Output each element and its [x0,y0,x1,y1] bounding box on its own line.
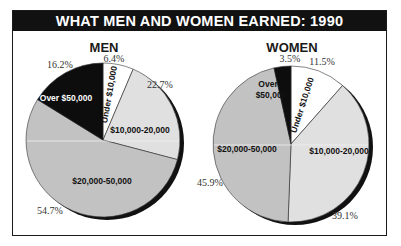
women-pct-label-under-10-000: 11.5% [309,56,334,67]
men-pct-label-20-000-50-000: 54.7% [37,205,63,216]
women-pct-label-over-50-000: 3.5% [280,53,301,64]
women-pie-group: WOMEN 11.5%39.1%45.9%3.5%Under $10,000$1… [197,40,373,225]
men-pct-label-over-50-000: 16.2% [47,59,73,70]
men-slice-label-over-50-000: Over $50,000 [40,93,93,103]
men-pct-label-under-10-000: 6.4% [104,53,125,64]
women-slice-label-20-000-50-000: $20,000-50,000 [217,144,277,154]
women-pct-label-20-000-50-000: 45.9% [197,177,223,188]
men-pct-label-10-000-20-000: 22.7% [147,79,173,90]
men-slice-label-10-000-20-000: $10,000-20,000 [110,125,170,135]
men-pie-group: MEN 6.4%22.7%54.7%16.2%Under $10,000$10,… [26,40,184,220]
women-pct-label-10-000-20-000: 39.1% [332,210,358,221]
pie-charts: MEN 6.4%22.7%54.7%16.2%Under $10,000$10,… [0,0,401,246]
women-slice-label-10-000-20-000: $10,000-20,000 [309,146,369,156]
men-slice-label-20-000-50-000: $20,000-50,000 [72,176,132,186]
